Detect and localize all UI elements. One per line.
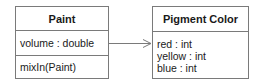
attribute-blue: blue : int [157,62,248,74]
class-box-pigment-color[interactable]: Pigment Color red : int yellow : int blu… [152,6,249,79]
attribute-volume: volume : double [20,37,94,49]
class-name-paint: Paint [16,7,108,31]
operation-mixin: mixIn(Paint) [20,61,76,73]
class-name-pigment-color: Pigment Color [153,7,248,32]
attributes-section-paint: volume : double [16,31,108,56]
attribute-yellow: yellow : int [157,50,248,62]
class-box-paint[interactable]: Paint volume : double mixIn(Paint) [15,6,109,79]
operations-section-paint: mixIn(Paint) [16,56,108,78]
attribute-red: red : int [157,38,248,50]
attributes-section-pigment-color: red : int yellow : int blue : int [153,32,248,74]
